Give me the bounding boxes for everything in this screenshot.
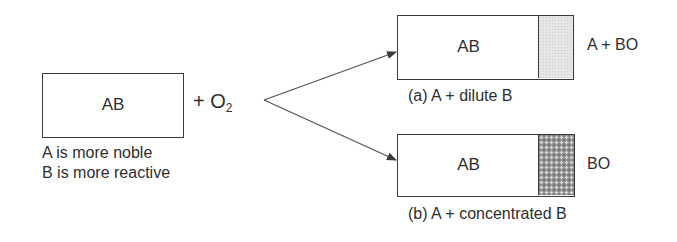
- arrow-to-dilute: [264, 52, 396, 100]
- reactant-alloy-box: AB: [42, 73, 184, 138]
- arrow-to-concentrated: [264, 100, 396, 160]
- oxygen-subscript: 2: [226, 101, 233, 115]
- reactant-alloy-label: AB: [43, 95, 183, 115]
- oxide-layer-dark: [538, 135, 574, 195]
- oxide-layer-light: [538, 16, 573, 78]
- oxygen-term: + O2: [193, 90, 232, 115]
- product-dilute-box: AB: [397, 15, 574, 80]
- product-dilute-alloy-label: AB: [398, 37, 539, 57]
- note-reactive: B is more reactive: [42, 164, 170, 182]
- plus-oxygen-text: + O: [193, 90, 226, 112]
- product-concentrated-box: AB: [397, 134, 575, 197]
- product-concentrated-alloy-label: AB: [398, 155, 539, 175]
- note-noble: A is more noble: [42, 144, 152, 162]
- caption-dilute: (a) A + dilute B: [408, 87, 513, 105]
- oxide-label-dilute: A + BO: [587, 36, 638, 54]
- caption-concentrated: (b) A + concentrated B: [408, 205, 567, 223]
- oxide-label-concentrated: BO: [587, 155, 610, 173]
